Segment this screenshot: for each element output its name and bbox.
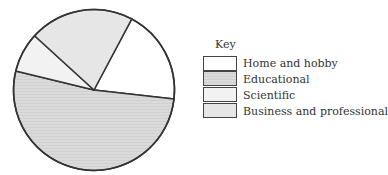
pie-chart — [0, 0, 190, 175]
legend-item-educational: Educational — [203, 71, 388, 87]
legend-label: Scientific — [243, 89, 295, 102]
legend-label: Business and professional — [243, 105, 388, 118]
legend-swatch — [203, 87, 237, 102]
legend-swatch — [203, 103, 237, 118]
legend-item-scientific: Scientific — [203, 87, 388, 103]
legend-swatch — [203, 56, 237, 71]
legend-title: Key — [215, 38, 388, 51]
legend-swatch — [203, 71, 237, 86]
legend-item-home-and-hobby: Home and hobby — [203, 55, 388, 71]
legend-item-business-and-professional: Business and professional — [203, 103, 388, 119]
legend-label: Home and hobby — [243, 57, 338, 70]
legend-label: Educational — [243, 73, 310, 86]
legend: Key Home and hobby Educational Scientifi… — [203, 38, 388, 119]
legend-rows: Home and hobby Educational Scientific Bu… — [203, 55, 388, 119]
